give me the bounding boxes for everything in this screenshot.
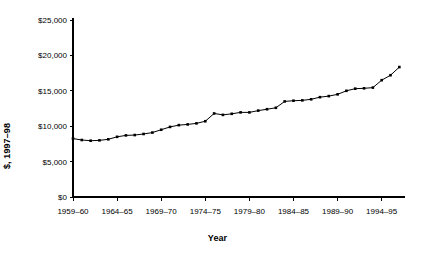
data-point-marker xyxy=(116,136,119,139)
data-point-marker xyxy=(257,109,260,112)
x-tick-label: 1964–65 xyxy=(102,207,134,216)
y-tick-label: $0 xyxy=(58,193,67,202)
x-tick-label: 1989–90 xyxy=(322,207,354,216)
data-point-marker xyxy=(195,122,198,125)
data-point-marker xyxy=(319,96,322,99)
x-tick-label: 1974–75 xyxy=(190,207,222,216)
data-point-marker xyxy=(248,111,251,114)
data-point-marker xyxy=(327,95,330,98)
x-axis-title: Year xyxy=(0,233,435,243)
line-chart-canvas: $0$5,000$10,000$15,000$20,000$25,000 195… xyxy=(0,0,435,256)
data-point-marker xyxy=(310,98,313,101)
data-point-marker xyxy=(89,139,92,142)
data-point-marker xyxy=(186,123,189,126)
data-point-marker xyxy=(213,112,216,115)
data-point-marker xyxy=(204,120,207,123)
data-point-marker xyxy=(275,106,278,109)
y-tick-label: $10,000 xyxy=(38,122,67,131)
data-point-marker xyxy=(283,100,286,103)
data-point-marker xyxy=(239,111,242,114)
x-tick-label: 1994–95 xyxy=(366,207,398,216)
data-point-marker xyxy=(133,134,136,137)
data-point-marker xyxy=(160,128,163,131)
data-point-marker xyxy=(363,87,366,90)
data-point-marker xyxy=(169,126,172,129)
data-point-marker xyxy=(345,90,348,93)
data-point-marker xyxy=(142,133,145,136)
data-point-marker xyxy=(380,79,383,82)
y-tick-label: $15,000 xyxy=(38,87,67,96)
data-point-marker xyxy=(372,86,375,89)
x-tick-label: 1984–85 xyxy=(278,207,310,216)
data-point-marker xyxy=(354,87,357,90)
data-point-marker xyxy=(398,66,401,69)
data-point-marker xyxy=(81,139,84,142)
data-point-marker xyxy=(292,99,295,102)
data-point-marker xyxy=(230,113,233,116)
data-point-marker xyxy=(151,131,154,134)
data-point-marker xyxy=(178,124,181,127)
chart-figure: $0$5,000$10,000$15,000$20,000$25,000 195… xyxy=(0,0,435,256)
x-tick-label: 1969–70 xyxy=(146,207,178,216)
data-point-marker xyxy=(107,138,110,141)
x-tick-label: 1959–60 xyxy=(57,207,89,216)
data-point-marker xyxy=(336,93,339,96)
data-point-marker xyxy=(125,134,128,137)
y-tick-label: $25,000 xyxy=(38,16,67,25)
data-point-marker xyxy=(72,137,75,140)
data-point-marker xyxy=(222,114,225,117)
data-point-marker xyxy=(301,99,304,102)
data-point-marker xyxy=(389,74,392,77)
y-tick-label: $5,000 xyxy=(43,158,68,167)
y-tick-label: $20,000 xyxy=(38,51,67,60)
data-point-marker xyxy=(266,108,269,111)
x-tick-label: 1979–80 xyxy=(234,207,266,216)
data-point-marker xyxy=(98,139,101,142)
